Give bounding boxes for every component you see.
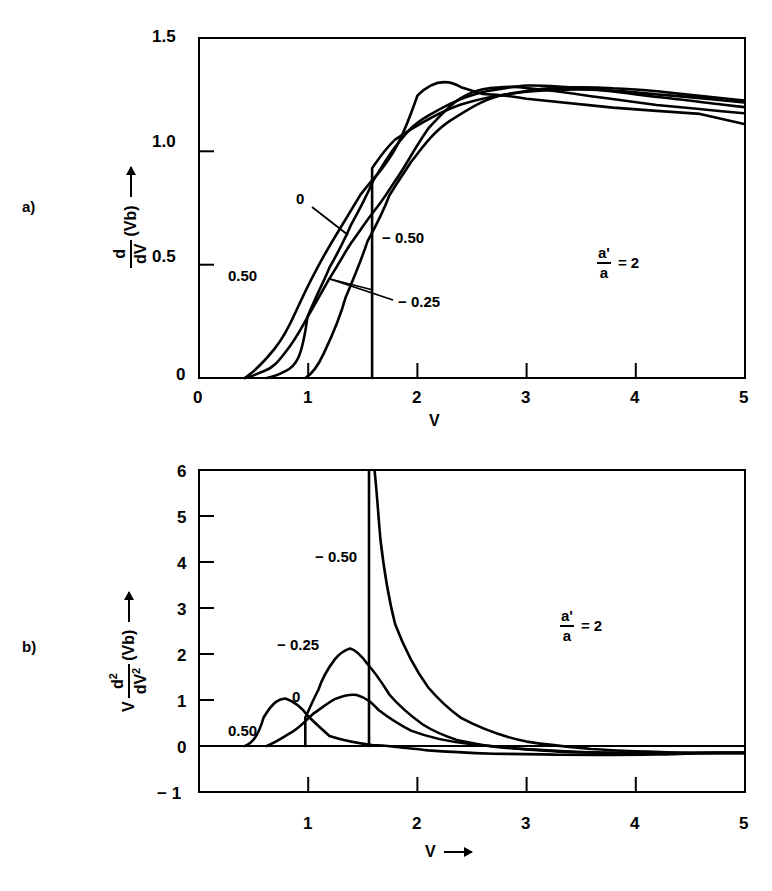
panel-a-leader-neg025 — [330, 279, 393, 300]
panel-b-ytick-2: 2 — [177, 646, 186, 666]
panel-b-y-fraction: V d2 dV2 (Vb) — [108, 630, 150, 712]
panel-a-y-denominator: dV — [130, 240, 150, 268]
panel-a-xtick-0: 0 — [193, 388, 202, 408]
panel-b-xtick-3: 3 — [521, 814, 530, 834]
panel-b-curve-label-neg050: − 0.50 — [315, 548, 357, 565]
panel-b-axes-frame — [199, 470, 745, 792]
panel-b-ytick-6: 6 — [177, 462, 186, 482]
panel-b-ytick-neg1: − 1 — [157, 784, 181, 804]
panel-b-curve-neg050 — [369, 466, 744, 753]
panel-b-annotation: a' a = 2 — [558, 608, 602, 644]
panel-b-y-denominator: dV2 — [128, 664, 150, 699]
panel-a-curve-label-neg025: − 0.25 — [398, 293, 440, 310]
panel-b-annotation-fraction: a' a — [558, 608, 576, 644]
panel-a-curve-neg025 — [305, 87, 744, 378]
panel-b-curve-label-neg025: − 0.25 — [277, 636, 319, 653]
panel-a-y-numerator: d — [112, 245, 130, 263]
panel-b-curve-0 — [267, 695, 745, 753]
panel-b-label: b) — [22, 638, 36, 655]
panel-b-xtick-4: 4 — [630, 814, 639, 834]
panel-b-x-axis-title: V — [425, 843, 472, 861]
panel-a-annotation-denominator: a — [597, 262, 611, 281]
panel-a-annotation: a' a = 2 — [595, 245, 639, 281]
panel-a-y-fraction: d dV (Vb) — [112, 205, 150, 268]
panel-b-annotation-value: = 2 — [581, 617, 602, 634]
up-arrow-icon-b — [128, 592, 130, 622]
panel-a-annotation-numerator: a' — [595, 245, 613, 262]
panel-b-xtick-2: 2 — [412, 814, 421, 834]
panel-a-xtick-1: 1 — [303, 388, 312, 408]
panel-b-annotation-denominator: a — [560, 625, 574, 644]
panel-a-xtick-4: 4 — [630, 388, 639, 408]
panel-b-y-axis-title: V d2 dV2 (Vb) — [108, 592, 150, 712]
panel-b-ytick-4: 4 — [177, 554, 186, 574]
up-arrow-icon — [130, 167, 132, 197]
panel-a-ytick-0.5: 0.5 — [152, 247, 176, 267]
panel-a-curve-0 — [267, 85, 745, 378]
panel-a-xtick-2: 2 — [412, 388, 421, 408]
panel-a-curve-label-0: 0 — [296, 190, 304, 207]
panel-a-ytick-0: 0 — [176, 365, 185, 385]
panel-b-annotation-numerator: a' — [558, 608, 576, 625]
panel-a-y-units: (Vb) — [122, 205, 140, 236]
panel-b-ytick-3: 3 — [177, 600, 186, 620]
panel-b-xtick-1: 1 — [303, 814, 312, 834]
panel-b-curve-neg025 — [305, 649, 744, 754]
panel-b-ytick-0: 0 — [177, 738, 186, 758]
panel-a-curve-label-neg050: − 0.50 — [382, 229, 424, 246]
panel-b-curve-label-050: 0.50 — [228, 722, 257, 739]
panel-b-curve-050 — [245, 699, 744, 755]
panel-b-y-units: (Vb) — [120, 630, 138, 661]
panel-a-xtick-3: 3 — [521, 388, 530, 408]
panel-b-y-numerator: d2 — [108, 669, 128, 693]
panel-a-plot — [0, 0, 772, 891]
panel-b-x-axis-label-text: V — [425, 843, 436, 861]
panel-a-curve-label-050: 0.50 — [228, 267, 257, 284]
panel-a-leader-neg025-b — [330, 279, 373, 290]
panel-b-ytick-5: 5 — [177, 508, 186, 528]
panel-a-annotation-value: = 2 — [618, 254, 639, 271]
panel-a-label: a) — [22, 198, 35, 215]
panel-a-curve-050-main — [245, 87, 744, 378]
panel-b-curve-label-0: 0 — [292, 688, 300, 705]
panel-a-leader-0 — [312, 207, 348, 235]
right-arrow-icon — [444, 851, 472, 853]
panel-a-xtick-5: 5 — [739, 388, 748, 408]
panel-a-axes-frame — [199, 38, 745, 378]
panel-a-ytick-1.5: 1.5 — [152, 27, 176, 47]
panel-a-curve-neg050 — [372, 89, 744, 378]
panel-b-y-prefix: V — [120, 701, 138, 712]
panel-b-xtick-5: 5 — [739, 814, 748, 834]
panel-a-y-axis-title: d dV (Vb) — [112, 167, 150, 268]
panel-a-ytick-1.0: 1.0 — [152, 132, 176, 152]
scientific-figure: a) d dV (Vb) 1.5 1.0 0.5 0 0 1 2 3 4 5 V… — [0, 0, 772, 891]
panel-a-x-axis-title: V — [429, 412, 440, 430]
panel-b-plot — [0, 0, 772, 891]
panel-a-annotation-fraction: a' a — [595, 245, 613, 281]
panel-a-curve-050 — [245, 82, 744, 378]
panel-b-ytick-1: 1 — [177, 692, 186, 712]
